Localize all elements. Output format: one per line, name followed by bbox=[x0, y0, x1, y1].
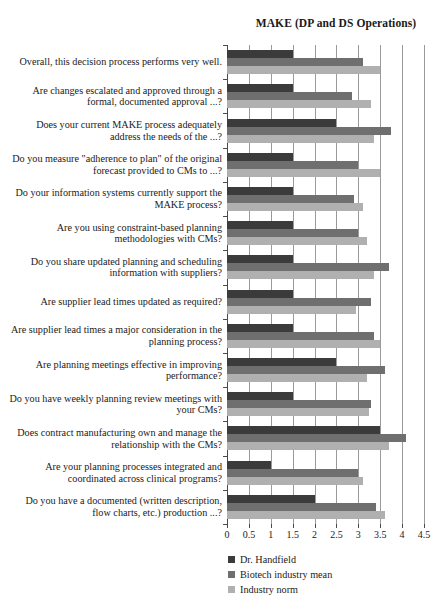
bar bbox=[227, 84, 293, 92]
x-tick bbox=[424, 524, 425, 528]
bar bbox=[227, 66, 380, 74]
bar bbox=[227, 169, 380, 177]
bar bbox=[227, 127, 391, 135]
bar bbox=[227, 392, 293, 400]
bar bbox=[227, 255, 293, 263]
category-label: Do you share updated planning and schedu… bbox=[8, 256, 222, 279]
bar bbox=[227, 469, 358, 477]
bar bbox=[227, 400, 371, 408]
bar bbox=[227, 374, 367, 382]
bar bbox=[227, 50, 293, 58]
legend-swatch bbox=[228, 571, 235, 578]
category-label: Do your information systems currently su… bbox=[8, 187, 222, 210]
bar bbox=[227, 263, 389, 271]
category-label: Are supplier lead times updated as requi… bbox=[8, 296, 222, 308]
category-label: Does contract manufacturing own and mana… bbox=[8, 427, 222, 450]
legend-label: Industry norm bbox=[240, 584, 298, 595]
chart-title: MAKE (DP and DS Operations) bbox=[224, 17, 448, 29]
legend-label: Dr. Handfield bbox=[240, 554, 296, 565]
bar bbox=[227, 161, 358, 169]
category-label: Are you using constraint-based planning … bbox=[8, 222, 222, 245]
x-tick bbox=[336, 524, 337, 528]
category-label: Are your planning processes integrated a… bbox=[8, 461, 222, 484]
bar bbox=[227, 434, 406, 442]
category-label: Are supplier lead times a major consider… bbox=[8, 324, 222, 347]
bar bbox=[227, 366, 385, 374]
bar bbox=[227, 92, 352, 100]
x-tick bbox=[293, 524, 294, 528]
category-label: Do you have a documented (written descri… bbox=[8, 495, 222, 518]
bar bbox=[227, 195, 354, 203]
x-tick bbox=[380, 524, 381, 528]
x-tick bbox=[227, 524, 228, 528]
legend-item: Dr. Handfield bbox=[228, 552, 332, 567]
bar bbox=[227, 119, 336, 127]
x-tick bbox=[249, 524, 250, 528]
bar bbox=[227, 408, 369, 416]
legend-swatch bbox=[228, 556, 235, 563]
bar bbox=[227, 324, 293, 332]
bar bbox=[227, 358, 336, 366]
bar bbox=[227, 100, 371, 108]
x-tick bbox=[358, 524, 359, 528]
gridline bbox=[424, 45, 425, 524]
bar bbox=[227, 203, 363, 211]
bar bbox=[227, 340, 380, 348]
legend-item: Biotech industry mean bbox=[228, 567, 332, 582]
bar bbox=[227, 306, 356, 314]
legend-item: Industry norm bbox=[228, 582, 332, 597]
bar bbox=[227, 495, 315, 503]
category-label: Does your current MAKE process adequatel… bbox=[8, 119, 222, 142]
bar bbox=[227, 135, 374, 143]
bar bbox=[227, 442, 389, 450]
category-label: Are changes escalated and approved throu… bbox=[8, 85, 222, 108]
bar bbox=[227, 153, 293, 161]
chart-legend: Dr. HandfieldBiotech industry meanIndust… bbox=[228, 552, 332, 597]
bar bbox=[227, 221, 293, 229]
x-tick bbox=[402, 524, 403, 528]
category-label: Are planning meetings effective in impro… bbox=[8, 359, 222, 382]
plot-area bbox=[227, 45, 424, 524]
bar bbox=[227, 461, 271, 469]
bar bbox=[227, 271, 374, 279]
bar bbox=[227, 290, 293, 298]
bar-chart: MAKE (DP and DS Operations) 00.511.522.5… bbox=[0, 0, 448, 613]
bar bbox=[227, 229, 358, 237]
bar bbox=[227, 298, 371, 306]
bar bbox=[227, 58, 363, 66]
x-tick bbox=[315, 524, 316, 528]
category-label: Do you measure "adherence to plan" of th… bbox=[8, 153, 222, 176]
bar bbox=[227, 477, 363, 485]
category-label: Overall, this decision process performs … bbox=[8, 56, 222, 68]
bar bbox=[227, 237, 367, 245]
category-label: Do you have weekly planning review meeti… bbox=[8, 393, 222, 416]
bar bbox=[227, 503, 376, 511]
x-tick bbox=[271, 524, 272, 528]
y-tick bbox=[223, 524, 227, 525]
x-tick-label: 4.5 bbox=[409, 529, 439, 540]
legend-swatch bbox=[228, 586, 235, 593]
bar bbox=[227, 187, 293, 195]
bar bbox=[227, 332, 374, 340]
bar bbox=[227, 511, 385, 519]
bar bbox=[227, 426, 380, 434]
legend-label: Biotech industry mean bbox=[240, 569, 332, 580]
